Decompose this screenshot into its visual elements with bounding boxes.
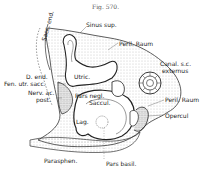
label-opercul: Opercul	[165, 112, 188, 119]
label-fen-utr-sacc: Fen. utr. sacc.	[4, 80, 46, 87]
label-saccul: Saccul.	[89, 99, 110, 106]
pars-neglecta	[112, 81, 124, 97]
label-d-end: D. end.	[26, 73, 48, 80]
label-canal-sc-line2: externus	[162, 67, 188, 74]
label-nerv-ac-line2: post.	[36, 96, 51, 103]
label-pars-basil: Pars basil.	[106, 160, 136, 167]
label-peril-raum-right: Peril. Raum	[165, 96, 199, 103]
label-nerv-ac-line1: Nerv. ac.	[28, 89, 54, 96]
label-sinus-sup: Sinus sup.	[86, 21, 117, 28]
label-pars-negl: Pars negl.	[75, 92, 104, 99]
label-canal-sc-line1: Canal. s.c.	[160, 60, 191, 67]
label-utric: Utric.	[74, 73, 90, 80]
label-lag: Lag.	[76, 118, 89, 125]
label-peril-raum-top: Peril. Raum	[119, 40, 153, 47]
label-parasphen: Parasphen.	[44, 157, 77, 164]
